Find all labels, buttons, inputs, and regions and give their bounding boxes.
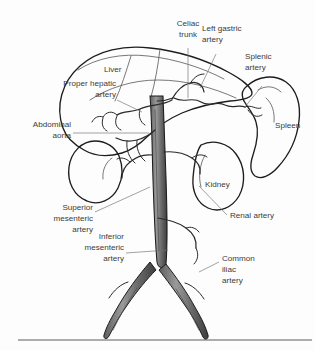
label-abdominal-aorta: Abdominal aorta (33, 120, 72, 140)
leader-renal-artery (199, 186, 227, 215)
label-splenic-artery: Splenic artery (245, 52, 272, 72)
label-proper-hepatic-line2: artery (95, 90, 117, 99)
label-inferior-mesenteric-line1: Inferior (99, 232, 124, 241)
label-common-iliac-artery: Common iliac artery (222, 254, 255, 285)
label-spleen: Spleen (275, 121, 300, 130)
label-abdominal-aorta-line1: Abdominal (33, 120, 71, 129)
label-spleen-text: Spleen (275, 121, 300, 130)
label-common-iliac-line2: iliac (222, 265, 236, 274)
label-celiac-trunk: Celiac trunk (177, 19, 200, 39)
label-splenic-line2: artery (245, 63, 267, 72)
leader-splenic (244, 86, 262, 108)
label-inferior-mesenteric-line3: artery (103, 254, 125, 263)
label-left-gastric-line2: artery (202, 35, 224, 44)
label-proper-hepatic-artery: Proper hepatic artery (63, 79, 117, 99)
common-iliac-arteries (104, 262, 208, 339)
anatomy-illustration: Celiac trunk Left gastric artery Splenic… (0, 0, 315, 351)
figure-canvas: Celiac trunk Left gastric artery Splenic… (0, 0, 315, 351)
label-common-iliac-line3: artery (222, 276, 244, 285)
label-superior-mesenteric-artery: Superior mesenteric artery (53, 203, 94, 234)
label-common-iliac-line1: Common (222, 254, 255, 263)
label-inferior-mesenteric-artery: Inferior mesenteric artery (84, 232, 125, 263)
leader-left-gastric (200, 54, 216, 88)
label-left-gastric-artery: Left gastric artery (202, 24, 242, 44)
label-celiac-trunk-line1: Celiac (177, 19, 200, 28)
label-proper-hepatic-line1: Proper hepatic (63, 79, 116, 88)
label-inferior-mesenteric-line2: mesenteric (84, 243, 124, 252)
label-superior-mesenteric-line1: Superior (62, 203, 93, 212)
label-superior-mesenteric-line2: mesenteric (53, 214, 93, 223)
label-superior-mesenteric-line3: artery (72, 225, 94, 234)
leader-superior-mesenteric (95, 187, 150, 212)
label-celiac-trunk-line2: trunk (179, 30, 198, 39)
splenic-artery (174, 98, 262, 116)
label-kidney-text: Kidney (205, 180, 231, 189)
label-liver-text: Liver (104, 65, 122, 74)
leader-common-iliac (199, 262, 219, 272)
label-renal-artery-text: Renal artery (230, 211, 275, 220)
leader-proper-hepatic (117, 100, 142, 112)
label-kidney: Kidney (205, 180, 231, 189)
label-left-gastric-line1: Left gastric (202, 24, 242, 33)
label-splenic-line1: Splenic (245, 52, 272, 61)
organ-left-kidney (193, 142, 244, 210)
label-abdominal-aorta-line2: aorta (53, 131, 72, 140)
label-liver: Liver (104, 65, 122, 74)
organ-right-kidney (69, 141, 122, 203)
label-renal-artery: Renal artery (230, 211, 275, 220)
